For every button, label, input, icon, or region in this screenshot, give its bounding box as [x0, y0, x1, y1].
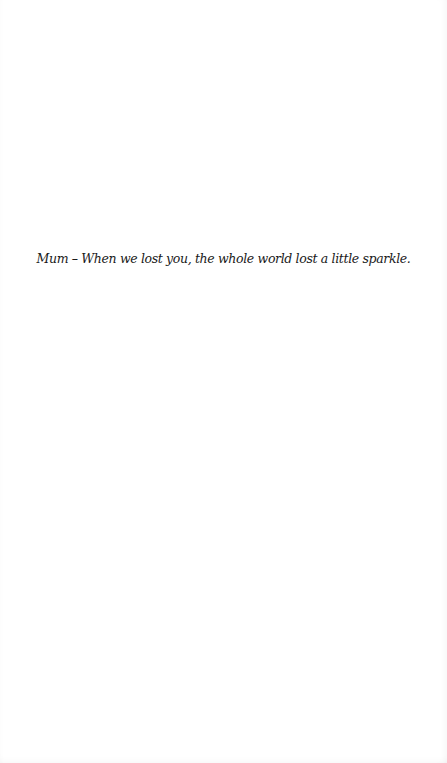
book-page: Mum – When we lost you, the whole world … [0, 0, 447, 763]
dedication-text: Mum – When we lost you, the whole world … [0, 249, 447, 269]
